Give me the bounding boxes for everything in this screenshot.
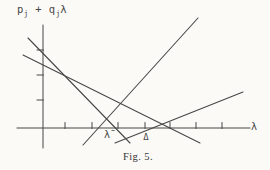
fn-line-shallow-descending bbox=[23, 55, 200, 143]
fn-line-steep-ascending bbox=[83, 18, 198, 145]
figure-caption: Fig. 5. bbox=[123, 151, 153, 162]
figure-5-plot: pj + qjλ λ Fig. 5. λ̄Δ bbox=[0, 0, 270, 170]
fn-line-shallow-ascending bbox=[115, 92, 243, 143]
axis-marker-lambda-bar: λ̄ bbox=[104, 130, 110, 140]
y-axis-label-lambda: λ bbox=[60, 3, 67, 15]
y-axis-label-plus: + bbox=[28, 3, 48, 15]
y-axis-label-p: p bbox=[17, 3, 24, 15]
axis-marker-delta: Δ bbox=[143, 133, 148, 142]
plot-canvas bbox=[0, 0, 270, 170]
y-axis-label-q: q bbox=[49, 3, 56, 15]
x-axis-label: λ bbox=[251, 121, 257, 132]
scanned-figure-page: pj + qjλ λ Fig. 5. λ̄Δ bbox=[0, 0, 270, 170]
y-axis-label: pj + qjλ bbox=[17, 3, 67, 18]
